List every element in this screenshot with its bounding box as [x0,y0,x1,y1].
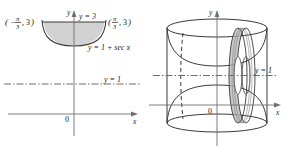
y-axis-label-3d: y [208,8,213,17]
y-axis-label: y [66,8,71,17]
origin-label-3d: 0 [208,107,212,116]
right-corner-denominator: 3 [112,23,117,30]
left-corner-denominator: 3 [15,23,20,30]
y-axis-arrowhead-3d [215,10,220,17]
left-corner-numerator: π [16,15,20,22]
solid-of-revolution-svg: y x 0 y = 1 [145,0,289,154]
upper-boundary-label: y = 3 [78,12,96,21]
axis-of-revolution-label-3d: y = 1 [254,66,272,75]
svg-text:): ) [127,17,131,27]
svg-text:): ) [30,17,34,27]
svg-text:(: ( [5,17,9,27]
lower-boundary-label: y = 1 + sec x [87,43,131,52]
x-axis-label-3d: x [275,108,280,117]
panel-plane-region: y x 0 y = 3 y = 1 + sec x y = 1 ( − π 3 … [0,0,145,154]
x-axis-arrowhead [131,112,138,117]
origin-label: 0 [65,115,69,124]
panel-solid-of-revolution: y x 0 y = 1 [145,0,289,154]
x-axis-label: x [132,117,137,126]
right-corner-numerator: π [113,15,117,22]
x-axis-arrowhead-3d [274,103,281,108]
y-axis-arrowhead [72,10,77,17]
plane-region-svg: y x 0 y = 3 y = 1 + sec x y = 1 ( − π 3 … [0,0,145,154]
svg-text:,: , [22,18,24,27]
right-corner-point-label: ( π 3 , 3 ) [108,15,131,30]
svg-text:(: ( [108,17,112,27]
figure-root: y x 0 y = 3 y = 1 + sec x y = 1 ( − π 3 … [0,0,289,154]
svg-text:,: , [119,18,121,27]
axis-of-revolution-label-2d: y = 1 [103,75,121,84]
left-corner-y: 3 [26,18,30,27]
left-corner-sign: − [10,18,15,27]
left-corner-point-label: ( − π 3 , 3 ) [5,15,34,30]
right-corner-y: 3 [123,18,127,27]
